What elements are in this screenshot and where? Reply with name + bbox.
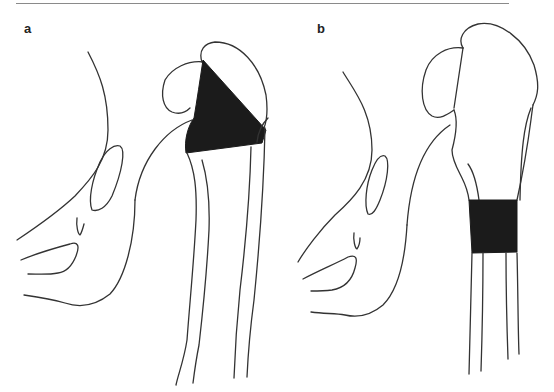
femur-lateral-outer-b	[517, 253, 519, 354]
pelvis-outline-b	[298, 72, 372, 262]
femur-medial-inner-b	[481, 253, 483, 371]
femur-lateral-cortex-outer-a	[247, 128, 265, 377]
lesion-shaft-segment	[469, 200, 517, 253]
pelvis-lower-b	[311, 225, 407, 316]
ischium-a	[21, 243, 78, 274]
greater-trochanter-b	[461, 23, 538, 105]
femoral-neck-b	[454, 48, 463, 108]
femur-medial-outer-b	[469, 253, 472, 374]
obturator-foramen-b	[366, 156, 388, 215]
femur-medial-cortex-outer-a	[176, 153, 196, 385]
lateral-cortex-outer-b	[517, 105, 533, 200]
femur-lateral-cortex-inner-a	[234, 147, 251, 378]
femur-lateral-inner-b	[506, 253, 508, 359]
neck-curve-b	[452, 110, 469, 200]
acetabulum-wall-b	[407, 125, 450, 225]
obturator-foramen-a	[90, 146, 122, 211]
panel-a-drawing	[17, 42, 268, 385]
femoral-head-b	[422, 48, 463, 118]
lesser-trochanter-b	[468, 164, 479, 200]
acetabulum-wall-a	[135, 120, 192, 200]
pubic-mark-a	[77, 218, 84, 235]
pelvis-outline-a	[17, 52, 108, 240]
lesion-wedge	[185, 60, 266, 153]
pubic-mark-b	[354, 233, 360, 249]
anatomy-diagram	[0, 0, 554, 392]
panel-b-drawing	[298, 23, 538, 374]
ischium-b	[303, 256, 356, 291]
